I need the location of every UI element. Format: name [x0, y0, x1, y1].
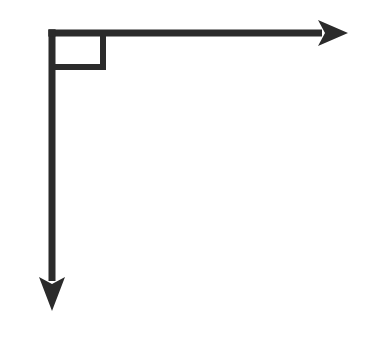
geometry-figure-canvas: Right angle formed by two perpendicular …	[0, 0, 373, 338]
vertex-point	[49, 30, 56, 37]
right-angle-diagram: Right angle formed by two perpendicular …	[0, 0, 373, 338]
